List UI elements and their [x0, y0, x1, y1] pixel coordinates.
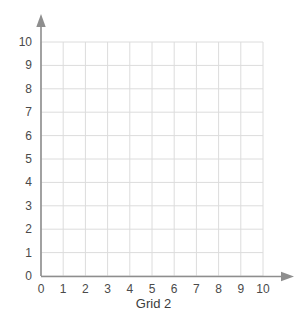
y-tick-label-8: 8	[8, 83, 32, 95]
x-tick-label-0: 0	[38, 283, 45, 295]
y-tick-label-9: 9	[8, 59, 32, 71]
y-tick-label-0: 0	[8, 270, 32, 282]
y-tick-label-10: 10	[8, 36, 32, 48]
x-tick-label-3: 3	[104, 283, 111, 295]
x-tick-label-4: 4	[126, 283, 133, 295]
y-tick-label-1: 1	[8, 247, 32, 259]
x-tick-label-7: 7	[193, 283, 200, 295]
grid-figure: 10 9 8 7 6 5 4 3 2 1 0 0 1 2 3 4 5 6 7 8…	[0, 0, 307, 330]
y-tick-label-5: 5	[8, 153, 32, 165]
y-tick-label-3: 3	[8, 200, 32, 212]
coordinate-grid-plot	[0, 0, 307, 330]
x-tick-label-1: 1	[60, 283, 67, 295]
y-axis-arrowhead-icon	[36, 14, 45, 27]
y-tick-label-2: 2	[8, 223, 32, 235]
x-tick-label-2: 2	[82, 283, 89, 295]
y-tick-label-7: 7	[8, 106, 32, 118]
x-tick-label-10: 10	[256, 283, 269, 295]
x-axis-arrowhead-icon	[281, 272, 294, 281]
x-tick-label-8: 8	[215, 283, 222, 295]
x-tick-label-9: 9	[237, 283, 244, 295]
chart-title: Grid 2	[0, 297, 307, 310]
y-tick-label-4: 4	[8, 176, 32, 188]
x-tick-label-5: 5	[149, 283, 156, 295]
x-tick-label-6: 6	[171, 283, 178, 295]
y-tick-label-6: 6	[8, 130, 32, 142]
